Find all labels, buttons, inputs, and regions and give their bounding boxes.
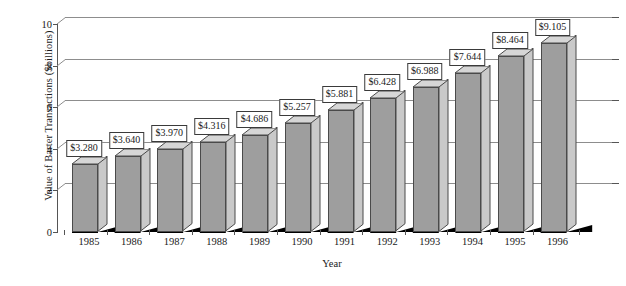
y-tick-mark [53, 149, 58, 150]
bar-side-face [268, 127, 278, 232]
x-tick-mark [320, 230, 321, 235]
bar-side-face [226, 134, 236, 232]
bar-side-face [354, 102, 364, 232]
x-tick-label: 1991 [334, 236, 355, 247]
x-tick-label: 1989 [249, 236, 270, 247]
bar-front-face [498, 56, 524, 232]
y-tick-label: 10 [42, 19, 53, 30]
bar-column [541, 36, 576, 232]
bar-column [200, 135, 235, 232]
y-tick-label: 2 [47, 185, 52, 196]
bar-top-face [157, 142, 193, 150]
x-tick-mark [579, 230, 580, 235]
bar-side-face [141, 148, 151, 232]
x-tick-label: 1994 [462, 236, 483, 247]
bar-side-face [311, 115, 321, 232]
right-tick-mark [612, 142, 619, 143]
bar-top-face [72, 157, 108, 165]
y-axis-line [57, 24, 58, 232]
x-tick-mark [490, 230, 491, 235]
x-tick-mark [362, 230, 363, 235]
bar-value-label: $4.316 [194, 118, 230, 135]
bar-value-label: $3.280 [66, 140, 102, 157]
bar-value-label: $5.257 [279, 99, 315, 116]
bar-top-face [413, 80, 449, 88]
bar-value-label: $3.640 [109, 132, 145, 149]
bar-value-label: $9.105 [535, 19, 571, 36]
x-tick-label: 1996 [547, 236, 568, 247]
bar-front-face [200, 142, 226, 232]
right-tick-mark [612, 100, 619, 101]
bar-front-face [413, 87, 439, 232]
x-axis-title-text: Year [322, 258, 341, 269]
y-tick-mark [53, 232, 58, 233]
bar-value-label: $7.644 [450, 49, 486, 66]
bar-top-face [242, 128, 278, 136]
bar-top-face [200, 135, 236, 143]
x-tick-mark [405, 230, 406, 235]
x-tick-label: 1990 [292, 236, 313, 247]
bar-column [370, 91, 405, 232]
x-tick-label: 1993 [419, 236, 440, 247]
bar-side-face [396, 90, 406, 232]
bar-top-face [328, 103, 364, 111]
bar-value-label: $6.428 [364, 74, 400, 91]
x-tick-label: 1987 [164, 236, 185, 247]
bar-top-face [285, 116, 321, 124]
bar-side-face [183, 141, 193, 232]
bar-top-face [541, 36, 577, 44]
bar-side-face [524, 48, 534, 232]
bar-front-face [455, 73, 481, 232]
bar-top-face [370, 91, 406, 99]
right-tick-mark [612, 183, 619, 184]
bar-column [328, 103, 363, 232]
bar-front-face [328, 110, 354, 232]
bar-front-face [157, 149, 183, 232]
x-tick-mark [64, 230, 65, 235]
bar-value-label: $3.970 [151, 125, 187, 142]
x-tick-label: 1995 [505, 236, 526, 247]
gridline-riser [57, 183, 67, 192]
bar-top-face [498, 49, 534, 57]
bar-side-face [98, 156, 108, 232]
bar-side-face [439, 79, 449, 232]
bar-value-label: $4.686 [237, 111, 273, 128]
right-tick-mark [612, 59, 619, 60]
y-tick-label: 6 [47, 102, 52, 113]
gridline [65, 17, 612, 18]
bar-front-face [115, 156, 141, 232]
right-tick-mark [612, 17, 619, 18]
x-tick-mark [149, 230, 150, 235]
x-tick-label: 1992 [377, 236, 398, 247]
x-tick-mark [533, 230, 534, 235]
bar-side-face [567, 35, 577, 232]
bar-value-label: $8.464 [492, 32, 528, 49]
bar-side-face [481, 65, 491, 232]
y-tick-mark [53, 66, 58, 67]
x-tick-mark [107, 230, 108, 235]
y-tick-mark [53, 24, 58, 25]
x-tick-mark [234, 230, 235, 235]
bar-front-face [541, 43, 567, 232]
bar-front-face [72, 164, 98, 232]
bar-chart: Value of Barter Transactions ($billions)… [0, 0, 626, 286]
bar-front-face [370, 98, 396, 232]
y-tick-mark [53, 107, 58, 108]
y-tick-label: 4 [47, 143, 52, 154]
y-tick-mark [53, 190, 58, 191]
x-tick-label: 1986 [121, 236, 142, 247]
gridline-riser [57, 100, 67, 109]
bar-column [413, 80, 448, 232]
x-tick-mark [192, 230, 193, 235]
bar-column [242, 128, 277, 232]
bar-column [498, 49, 533, 232]
bar-front-face [285, 123, 311, 232]
bar-top-face [115, 149, 151, 157]
bar-value-label: $6.988 [407, 63, 443, 80]
x-axis-title: Year [0, 258, 626, 269]
x-tick-label: 1988 [206, 236, 227, 247]
bar-column [115, 149, 150, 232]
y-tick-label: 0 [47, 227, 52, 238]
bar-column [72, 157, 107, 232]
bar-top-face [455, 66, 491, 74]
